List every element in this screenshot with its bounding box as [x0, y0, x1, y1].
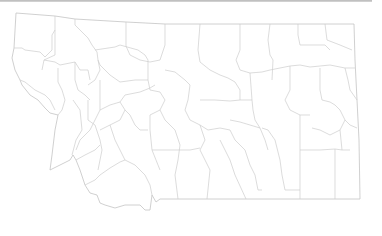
montana-county-map — [0, 0, 382, 236]
